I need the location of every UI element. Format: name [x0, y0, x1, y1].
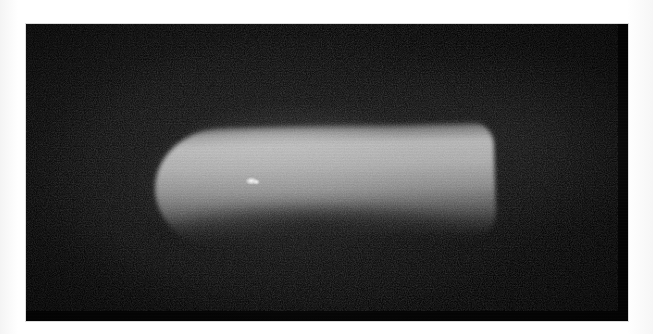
- subject-halo: [142, 111, 510, 263]
- photo-caption: [0, 0, 1, 1]
- scan-banding: [26, 24, 628, 321]
- specular-highlight: [245, 177, 258, 185]
- page-canvas: [0, 0, 653, 334]
- vignette: [26, 24, 628, 321]
- subject-shadow: [150, 206, 502, 268]
- grayscale-photograph: [26, 24, 628, 321]
- specular-highlight-secondary: [253, 179, 260, 185]
- capsule-object: [153, 120, 496, 249]
- background-illumination: [26, 24, 628, 321]
- film-grain-light: [26, 24, 618, 311]
- film-grain-dark: [26, 24, 618, 311]
